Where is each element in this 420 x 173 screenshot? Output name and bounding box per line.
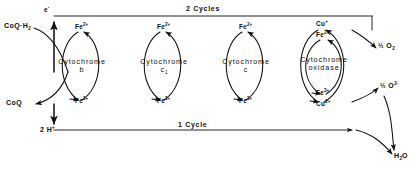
cycle-oxidase-copper-oxidized-label: Cu2+ xyxy=(316,100,330,108)
cycle-c1-oxidized-label: Fe3+ xyxy=(157,97,170,105)
coq-reduced-label: CoQ·H2 xyxy=(4,22,31,32)
cycle-b-reduced-label: Fe2+ xyxy=(75,23,88,31)
cycle-c1-reduced-label: Fe2+ xyxy=(157,23,170,31)
cycle-b-name-line2: b xyxy=(56,66,108,74)
cycle-oxidase-oxidized-label: Fe3+ xyxy=(316,89,329,97)
cycle-oxidase-copper-reduced-label: Cu+ xyxy=(316,20,328,28)
electron-transport-chain-diagram: e- 2 Cycles 1 Cycle CoQ·H2 CoQ 2 H+ Fe2+… xyxy=(0,0,420,173)
curve-to-oxide xyxy=(352,88,378,102)
cycle-c-name-line2: c xyxy=(220,66,272,74)
top-path-label: 2 Cycles xyxy=(186,5,220,13)
cycle-b-oxidized-label: Fe3+ xyxy=(75,97,88,105)
cycle-oxidase-name-line2: oxidase xyxy=(296,64,352,72)
cycle-c1-name-line2: c1 xyxy=(138,66,190,76)
water-label: H2O xyxy=(394,152,408,162)
cycle-arc-group xyxy=(34,16,394,154)
diagram-canvas xyxy=(0,0,420,173)
oxide-label: ½ O2- xyxy=(380,82,398,90)
electron-label: e- xyxy=(44,6,49,14)
curve-to-half-o2 xyxy=(352,30,376,48)
protons-label: 2 H+ xyxy=(40,126,55,134)
cycle-c1-name: Cytochrome c1 xyxy=(138,58,190,76)
curve-to-water-upper xyxy=(384,96,394,150)
cycle-oxidase-name: Cytochrome oxidase xyxy=(296,56,352,72)
cycle-b-name: Cytochrome b xyxy=(56,58,108,74)
cycle-oxidase-reduced-label: Fe2+ xyxy=(316,31,329,39)
bottom-path-label: 1 Cycle xyxy=(178,121,207,129)
cycle-c-reduced-label: Fe2+ xyxy=(239,23,252,31)
half-oxygen-label: ½ O2 xyxy=(378,42,395,52)
cycle-c-oxidized-label: Fe3+ xyxy=(239,97,252,105)
coq-oxidized-label: CoQ xyxy=(6,99,22,107)
curve-to-water-lower xyxy=(356,130,392,154)
cycle-c-name: Cytochrome c xyxy=(220,58,272,74)
